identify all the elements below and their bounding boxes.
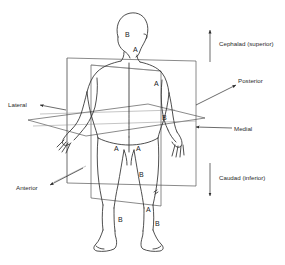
region-marker-shin-right: A [146,206,151,213]
region-marker-upper-arm-right: A [154,80,159,87]
cephalad-label: Cephalad (superior) [219,40,274,47]
anterior-arrow [50,168,83,185]
posterior-label: Posterior [238,77,263,84]
caudad-label: Caudad (inferior) [219,174,265,181]
horizontal-plane [28,104,205,136]
anatomical-planes-diagram: B A A B A A B A B B Cephalad (superior) … [0,0,285,265]
region-marker-neck: A [133,46,138,53]
posterior-arrow [196,85,236,105]
anterior-label: Anterior [16,184,38,191]
label-anterior: Anterior [16,168,83,191]
region-marker-thigh-left: A [114,145,119,152]
region-marker-calf-right: B [155,220,160,227]
medial-label: Medial [234,125,252,132]
region-marker-head: B [125,31,130,38]
label-lateral: Lateral [8,101,66,110]
lateral-label: Lateral [8,101,27,108]
region-marker-thigh-right: A [136,145,141,152]
region-marker-calf-left: B [118,216,123,223]
label-caudad: Caudad (inferior) [210,163,265,196]
region-marker-knee-center: B [139,171,144,178]
label-posterior: Posterior [196,77,263,105]
label-cephalad: Cephalad (superior) [210,30,274,62]
label-medial: Medial [196,125,252,132]
medial-arrow [196,127,232,128]
lateral-arrow [40,105,66,110]
region-marker-forearm-right: B [162,114,167,121]
